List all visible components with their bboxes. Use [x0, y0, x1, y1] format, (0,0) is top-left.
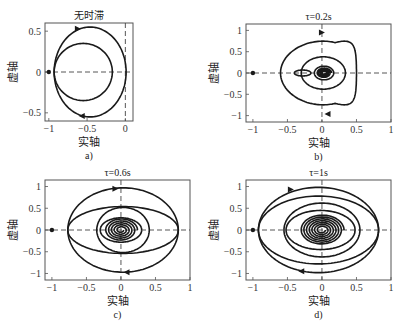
y-axis-label: 虚轴	[6, 61, 20, 83]
x-tick-label: 1	[188, 282, 193, 293]
subplot-caption: a)	[85, 150, 93, 162]
y-tick-label: 0.5	[230, 46, 243, 57]
y-axis-label: 虚轴	[207, 219, 221, 241]
x-axis-label: 实轴	[78, 135, 100, 149]
direction-arrow-icon	[324, 111, 330, 117]
subplot-caption: b)	[314, 151, 322, 163]
nyquist-curve	[106, 219, 138, 240]
y-tick-label: −1	[231, 268, 242, 279]
y-axis-label: 虚轴	[6, 219, 20, 241]
nyquist-figure: −1−0.500.50−0.5无时滞实轴虚轴a)−1−0.500.5110.50…	[0, 0, 404, 327]
subplot-caption: c)	[114, 309, 122, 321]
critical-point-marker	[50, 228, 54, 232]
x-tick-label: 0.5	[350, 124, 363, 135]
x-axis-label: 实轴	[308, 136, 330, 150]
y-tick-label: 0	[237, 68, 242, 79]
subplot-c: −1−0.500.5110.50−0.5−1τ=0.6s实轴虚轴c)	[6, 167, 193, 321]
subplot-title: τ=0.2s	[305, 11, 331, 22]
x-axis-label: 实轴	[107, 294, 129, 308]
direction-arrow-icon	[298, 268, 304, 274]
x-tick-label: −1	[248, 282, 259, 293]
subplot-caption: d)	[314, 309, 322, 321]
x-tick-label: 0	[319, 124, 324, 135]
y-tick-label: 0.5	[230, 203, 243, 214]
critical-point-marker	[251, 228, 255, 232]
x-tick-label: 1	[389, 282, 394, 293]
x-tick-label: 1	[389, 124, 394, 135]
nyquist-curve	[317, 68, 331, 77]
subplot-d: −1−0.500.5110.50−0.5−1τ=1s实轴虚轴d)	[207, 167, 394, 321]
nyquist-curve	[301, 215, 344, 244]
x-tick-label: −1	[44, 123, 55, 134]
subplot-b: −1−0.500.5110.50−0.5−1τ=0.2s实轴虚轴b)	[207, 11, 394, 163]
y-tick-label: 0	[237, 225, 242, 236]
x-tick-label: 0	[319, 282, 324, 293]
subplot-title: τ=1s	[309, 167, 328, 178]
subplot-title: 无时滞	[74, 10, 104, 21]
subplot-title: τ=0.6s	[104, 167, 130, 178]
y-tick-label: 0.5	[29, 203, 42, 214]
x-tick-label: 0	[118, 282, 123, 293]
critical-point-marker	[251, 71, 255, 75]
direction-arrow-icon	[123, 269, 129, 275]
y-tick-label: 0.5	[29, 26, 42, 37]
x-tick-label: 0.5	[149, 282, 162, 293]
y-tick-label: −0.5	[224, 246, 242, 257]
x-tick-label: −0.5	[278, 124, 296, 135]
y-tick-label: −1	[30, 268, 41, 279]
x-tick-label: −1	[248, 124, 259, 135]
subplot-a: −1−0.500.50−0.5无时滞实轴虚轴a)	[6, 10, 133, 162]
x-tick-label: 0.5	[350, 282, 363, 293]
x-tick-label: −1	[47, 282, 58, 293]
y-tick-label: 0	[36, 67, 41, 78]
direction-arrow-icon	[112, 186, 118, 192]
x-tick-label: −0.5	[77, 282, 95, 293]
critical-point-marker	[47, 70, 51, 74]
y-tick-label: 0	[36, 225, 41, 236]
direction-arrow-icon	[75, 26, 81, 32]
nyquist-curves	[281, 41, 357, 105]
x-axis-label: 实轴	[308, 294, 330, 308]
y-tick-label: 1	[36, 181, 41, 192]
x-tick-label: −0.5	[278, 282, 296, 293]
x-tick-label: 0	[123, 123, 128, 134]
y-tick-label: −0.5	[23, 107, 41, 118]
direction-arrow-icon	[79, 113, 85, 119]
x-tick-label: −0.5	[78, 123, 96, 134]
y-tick-label: −0.5	[224, 89, 242, 100]
y-tick-label: 1	[237, 25, 242, 36]
y-tick-label: −0.5	[23, 246, 41, 257]
y-axis-label: 虚轴	[207, 62, 221, 84]
y-tick-label: −1	[231, 110, 242, 121]
y-tick-label: 1	[237, 181, 242, 192]
